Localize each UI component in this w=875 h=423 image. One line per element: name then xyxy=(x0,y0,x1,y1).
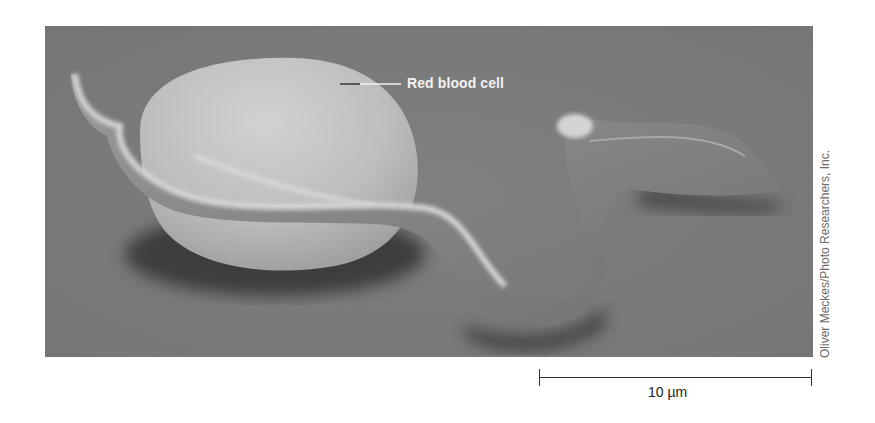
annotation-label: Red blood cell xyxy=(407,75,504,91)
scale-bar-label: 10 µm xyxy=(648,384,687,400)
scale-bar-left-cap xyxy=(539,369,540,386)
red-blood-cell xyxy=(140,58,418,271)
scale-bar-line xyxy=(539,377,812,378)
micrograph-photo: Red blood cell xyxy=(45,26,813,357)
photo-credit: Oliver Meckes/Photo Researchers, Inc. xyxy=(818,150,832,358)
scale-bar-right-cap xyxy=(811,369,812,386)
